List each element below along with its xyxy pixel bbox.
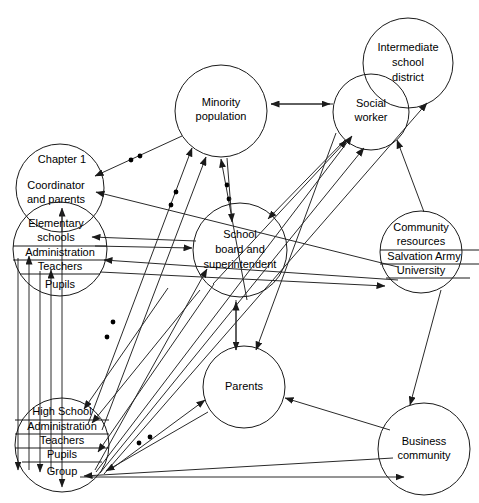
node-subrow-teachers[interactable]: Teachers	[40, 434, 85, 446]
node-label: school	[392, 56, 424, 68]
node-label: Intermediate	[377, 41, 438, 53]
edge-marker-dot	[148, 435, 153, 440]
edge-marker-dot	[169, 203, 174, 208]
node-subrow-teachers[interactable]: Teachers	[38, 260, 83, 272]
edge-marker-dot	[174, 190, 179, 195]
edge-marker-dot	[105, 335, 110, 340]
node-subrow-university[interactable]: University	[397, 264, 446, 276]
edge-marker-dot	[138, 154, 143, 159]
node-label: schools	[37, 231, 75, 243]
node-elementary-schools[interactable]: Elementary schools Administration Teache…	[13, 202, 107, 296]
node-label: population	[196, 110, 247, 122]
node-label: district	[392, 71, 424, 83]
node-high-school[interactable]: High School Administration Teachers Pupi…	[15, 398, 109, 492]
edge-socialworker-to-schoolboard	[268, 140, 345, 219]
edge-elementary-to-schoolboard	[95, 246, 192, 248]
edge-chapter1-to-highschool	[84, 288, 168, 409]
node-label: community	[397, 449, 451, 461]
node-label: High School	[32, 405, 91, 417]
node-subrow-pupils[interactable]: Pupils	[45, 278, 75, 290]
node-label: Elementary	[28, 217, 84, 229]
node-subrow-pupils[interactable]: Pupils	[47, 448, 77, 460]
node-label: Minority	[202, 96, 241, 108]
edge-marker-dot	[129, 158, 134, 163]
node-business-community[interactable]: Business community	[378, 403, 470, 495]
node-label: superintendent	[204, 258, 277, 270]
node-label: School	[223, 228, 257, 240]
edge-marker-dot	[137, 441, 142, 446]
edge-elementary-to-minority	[102, 157, 206, 430]
node-subrow-group[interactable]: Group	[47, 465, 78, 477]
network-diagram: Minority population Intermediate school …	[0, 0, 479, 503]
edge-community-to-intermediate	[397, 140, 424, 212]
edge-marker-dot	[111, 320, 116, 325]
edge-business-to-parents	[285, 398, 390, 430]
node-community-resources[interactable]: Community resources Salvation Army Unive…	[380, 211, 479, 293]
node-label: resources	[397, 235, 446, 247]
node-label: Coordinator	[27, 179, 85, 191]
node-label: Community	[393, 221, 449, 233]
node-minority-population[interactable]: Minority population	[175, 65, 267, 157]
node-school-board[interactable]: School board and superintendent	[193, 203, 287, 297]
node-parents[interactable]: Parents	[203, 346, 285, 428]
node-subrow-administration[interactable]: Administration	[27, 420, 97, 432]
node-social-worker[interactable]: Social worker	[333, 74, 409, 150]
node-label: worker	[353, 111, 387, 123]
edge-schoolboard-to-elementary	[92, 237, 196, 241]
node-label: Business	[402, 435, 447, 447]
node-label: Social	[356, 97, 386, 109]
node-subrow-salvation-army[interactable]: Salvation Army	[387, 250, 461, 262]
node-label: Chapter 1	[38, 153, 86, 165]
node-subrow-administration[interactable]: Administration	[25, 246, 95, 258]
edge-parents-to-group	[106, 412, 208, 471]
edge-community-to-business	[410, 290, 441, 405]
diagram-canvas: Minority population Intermediate school …	[0, 0, 479, 503]
node-label: board and	[215, 243, 265, 255]
node-label: Parents	[225, 380, 263, 392]
edge-business-to-group	[84, 458, 393, 476]
